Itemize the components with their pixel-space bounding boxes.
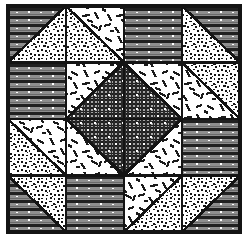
cell-r3c4 <box>182 119 240 176</box>
cell-r1c4 <box>182 6 240 63</box>
cell-r2c1-fill <box>8 63 66 120</box>
cell-r3c4-fill <box>182 119 240 176</box>
cell-r1c3 <box>124 6 182 63</box>
cell-r4c3 <box>124 176 182 233</box>
quilt-block-figure: Pieced quilt block pattern <box>0 0 247 238</box>
cell-r4c2 <box>66 176 124 233</box>
cell-r2c4 <box>182 63 240 120</box>
cell-r4c4 <box>182 176 240 233</box>
cell-r4c1 <box>8 176 66 233</box>
cell-r1c3-fill <box>124 6 182 63</box>
cell-r2c1 <box>8 63 66 120</box>
cell-r4c2-fill <box>66 176 124 233</box>
cell-r1c1 <box>8 6 66 63</box>
cell-r1c2 <box>66 6 124 63</box>
cell-r3c1 <box>8 119 66 176</box>
quilt-block-svg <box>0 0 247 238</box>
quilt-block <box>8 6 240 232</box>
